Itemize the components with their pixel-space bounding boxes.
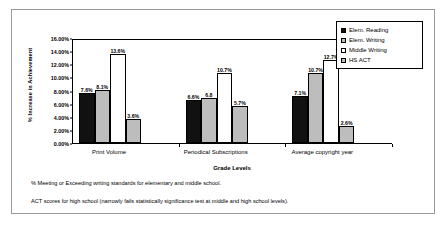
footnote-meeting-standards: % Meeting or Exceeding writing standards… — [31, 180, 221, 186]
x-category-label: Average copyright year — [292, 149, 354, 155]
x-tick-mark — [392, 144, 393, 147]
y-tick-mark — [70, 65, 72, 66]
x-axis-line — [72, 143, 392, 144]
x-category-label: Periodical Subscriptions — [184, 149, 248, 155]
legend-label: Elem. Writing — [349, 37, 385, 43]
bar[interactable]: 10.7% — [308, 73, 324, 143]
legend-label: Middle Writing — [349, 47, 387, 53]
y-tick-label: 8.00% — [54, 89, 69, 95]
x-axis-title: Grade Levels — [72, 165, 392, 171]
bar-value-label: 6.8 — [205, 92, 212, 98]
y-tick-mark — [70, 117, 72, 118]
bar-value-label: 10.7% — [308, 67, 323, 73]
y-tick-mark — [70, 91, 72, 92]
y-tick-mark — [70, 144, 72, 145]
y-tick-mark — [70, 130, 72, 131]
y-tick-label: 10.00% — [51, 75, 69, 81]
x-tick-mark — [179, 144, 180, 147]
legend-item[interactable]: Elem. Reading — [341, 25, 419, 35]
bar-group: 6.6%6.810.7%5.7% — [186, 39, 248, 143]
y-tick-mark — [70, 52, 72, 53]
x-category-label: Print Volume — [92, 149, 126, 155]
y-tick-label: 2.00% — [54, 128, 69, 134]
legend-label: Elem. Reading — [349, 27, 388, 33]
y-tick-label: 16.00% — [51, 36, 69, 42]
x-tick-mark — [285, 144, 286, 147]
bar-value-label: 7.1% — [294, 90, 306, 96]
legend-swatch-icon — [341, 28, 346, 33]
footnote-act-scores: ACT scores for high school (narrowly fai… — [31, 198, 288, 204]
bar[interactable]: 8.1% — [95, 90, 111, 143]
bar-value-label: 13.6% — [110, 48, 125, 54]
chart-frame: % Increase in Achievement 16.00%14.00%12… — [11, 9, 435, 214]
legend-item[interactable]: HS ACT — [341, 55, 419, 65]
y-tick-label: 0.00% — [54, 141, 69, 147]
legend-item[interactable]: Middle Writing — [341, 45, 419, 55]
legend-swatch-icon — [341, 48, 346, 53]
bar-value-label: 7.6% — [81, 87, 93, 93]
y-tick-label: 6.00% — [54, 102, 69, 108]
bar-group: 7.6%8.1%13.6%3.6% — [79, 39, 141, 143]
bar[interactable]: 10.7% — [217, 73, 233, 143]
legend-item[interactable]: Elem. Writing — [341, 35, 419, 45]
y-tick-mark — [70, 39, 72, 40]
bar-value-label: 5.7% — [234, 100, 246, 106]
y-tick-mark — [70, 104, 72, 105]
y-tick-label: 4.00% — [54, 115, 69, 121]
bar-value-label: 3.6% — [127, 113, 139, 119]
bar[interactable]: 5.7% — [232, 106, 248, 143]
bar[interactable]: 2.6% — [339, 126, 355, 143]
bar[interactable]: 3.6% — [126, 119, 142, 143]
bar-value-label: 2.6% — [341, 120, 353, 126]
legend-swatch-icon — [341, 58, 346, 63]
bar[interactable]: 7.1% — [292, 96, 308, 143]
bar[interactable]: 6.8 — [201, 98, 217, 143]
bar[interactable]: 6.6% — [186, 100, 202, 143]
bar[interactable]: 7.6% — [79, 93, 95, 143]
bar-value-label: 10.7% — [217, 67, 232, 73]
bar-value-label: 6.6% — [187, 94, 199, 100]
bar-value-label: 8.1% — [96, 84, 108, 90]
y-tick-label: 14.00% — [51, 49, 69, 55]
y-tick-label: 12.00% — [51, 62, 69, 68]
y-axis-title: % Increase in Achievement — [27, 20, 33, 150]
bar[interactable]: 13.6% — [110, 54, 126, 143]
legend-label: HS ACT — [349, 57, 371, 63]
chart-legend: Elem. ReadingElem. WritingMiddle Writing… — [336, 21, 423, 69]
legend-swatch-icon — [341, 38, 346, 43]
bar[interactable]: 12.7% — [323, 60, 339, 143]
y-tick-mark — [70, 78, 72, 79]
